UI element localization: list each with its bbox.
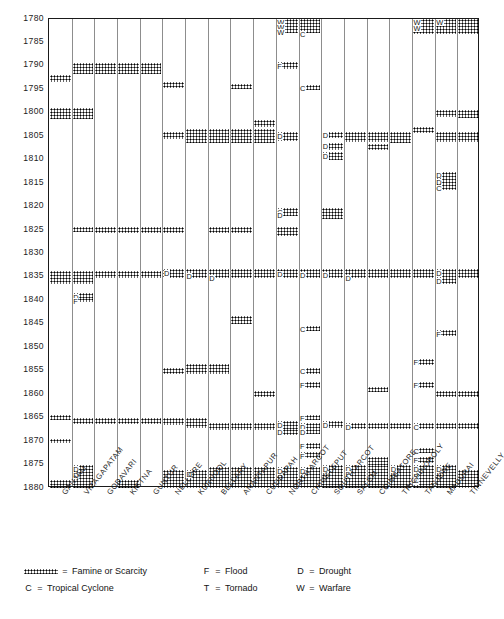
event-marker-f: F bbox=[300, 382, 305, 389]
year-tick-label: 1815 bbox=[2, 178, 44, 187]
famine-bar bbox=[163, 227, 184, 233]
legend-label: Tropical Cyclone bbox=[47, 583, 114, 593]
legend-item-tornado: T=Tornado bbox=[202, 583, 258, 593]
legend-equals: = bbox=[33, 583, 47, 593]
famine-bar bbox=[141, 63, 162, 74]
plot-area: DFDDDDDDWWWFDCDDDDDCCDCCFFDDCFTFDDDDDDDD… bbox=[48, 18, 479, 487]
famine-bar bbox=[345, 132, 366, 142]
famine-bar bbox=[95, 271, 116, 278]
famine-bar bbox=[436, 110, 457, 118]
famine-bar bbox=[368, 144, 389, 151]
event-marker-c: C bbox=[436, 185, 442, 192]
famine-bar bbox=[50, 439, 71, 444]
event-marker-d: D bbox=[436, 278, 442, 285]
famine-bar bbox=[95, 63, 116, 74]
column-gridline bbox=[276, 19, 277, 486]
event-marker-c: C bbox=[300, 368, 306, 375]
year-tick-label: 1825 bbox=[2, 225, 44, 234]
year-tick-label: 1835 bbox=[2, 271, 44, 280]
famine-bar bbox=[50, 271, 71, 283]
event-marker-f: F bbox=[300, 443, 305, 450]
legend-key-letter: C bbox=[24, 583, 33, 593]
legend-item-famine-or-scarcity: =Famine or Scarcity bbox=[24, 566, 147, 576]
famine-bar bbox=[118, 271, 139, 278]
district-axis: GANJAMVIZAGAPATAMGODAVARIKISTNAGUNTURNEL… bbox=[0, 487, 504, 567]
famine-bar bbox=[50, 75, 71, 82]
event-marker-d: D bbox=[322, 153, 328, 160]
year-tick-label: 1855 bbox=[2, 365, 44, 374]
column-gridline bbox=[185, 19, 186, 486]
legend-equals: = bbox=[211, 583, 225, 593]
event-marker-w: W bbox=[436, 19, 444, 26]
year-tick-label: 1865 bbox=[2, 412, 44, 421]
legend-label: Flood bbox=[225, 566, 248, 576]
event-marker-d: D bbox=[322, 143, 328, 150]
legend-label: Warfare bbox=[319, 583, 351, 593]
column-gridline bbox=[117, 19, 118, 486]
famine-bar bbox=[209, 227, 230, 233]
famine-bar bbox=[163, 418, 184, 425]
year-tick-label: 1820 bbox=[2, 201, 44, 210]
event-marker-f: F bbox=[300, 415, 305, 422]
year-tick-label: 1830 bbox=[2, 248, 44, 257]
year-tick-label: 1795 bbox=[2, 84, 44, 93]
famine-bar bbox=[390, 269, 411, 277]
famine-bar bbox=[73, 63, 94, 74]
famine-bar bbox=[458, 269, 479, 277]
event-marker-d: D bbox=[277, 212, 283, 219]
famine-dots-icon bbox=[24, 569, 58, 574]
event-marker-d: D bbox=[322, 132, 328, 139]
event-marker-f: F bbox=[300, 453, 305, 460]
famine-bar bbox=[231, 227, 252, 233]
famine-bar bbox=[231, 269, 252, 277]
famine-bar bbox=[163, 82, 184, 88]
legend-row: =Famine or ScarcityF=FloodD=Drought bbox=[24, 566, 444, 580]
famine-bar bbox=[458, 423, 479, 429]
event-marker-d: D bbox=[300, 272, 306, 279]
famine-bar bbox=[231, 316, 252, 324]
famine-bar bbox=[73, 418, 94, 424]
legend-equals: = bbox=[305, 566, 319, 576]
legend-key-letter: T bbox=[202, 583, 211, 593]
famine-bar bbox=[163, 368, 184, 374]
year-tick-label: 1810 bbox=[2, 154, 44, 163]
famine-bar bbox=[254, 129, 275, 143]
legend-equals: = bbox=[305, 583, 319, 593]
event-marker-d: D bbox=[186, 273, 192, 280]
famine-bar bbox=[368, 457, 389, 465]
famine-bar bbox=[50, 108, 71, 119]
event-marker-c: C bbox=[300, 31, 306, 38]
famine-bar bbox=[413, 269, 434, 277]
famine-bar bbox=[254, 120, 275, 127]
year-tick-label: 1790 bbox=[2, 60, 44, 69]
famine-bar bbox=[186, 364, 207, 373]
famine-bar bbox=[436, 423, 457, 429]
event-marker-f: F bbox=[413, 382, 418, 389]
famine-bar bbox=[141, 418, 162, 424]
event-marker-d: D bbox=[322, 272, 328, 279]
famine-bar bbox=[73, 271, 94, 283]
famine-bar bbox=[209, 364, 230, 373]
event-marker-c: C bbox=[413, 424, 419, 431]
event-marker-d: D bbox=[322, 422, 328, 429]
event-marker-w: W bbox=[413, 25, 421, 32]
column-gridline bbox=[253, 19, 254, 486]
famine-bar bbox=[458, 132, 479, 142]
legend-row: C=Tropical CycloneT=TornadoW=Warfare bbox=[24, 583, 444, 597]
column-gridline bbox=[162, 19, 163, 486]
famine-bar bbox=[118, 227, 139, 233]
legend-item-warfare: W=Warfare bbox=[296, 583, 351, 593]
famine-bar bbox=[458, 110, 479, 118]
column-gridline bbox=[208, 19, 209, 486]
legend-key-letter: W bbox=[296, 583, 305, 593]
famine-bar bbox=[254, 391, 275, 397]
legend-equals: = bbox=[211, 566, 225, 576]
column-gridline bbox=[72, 19, 73, 486]
column-gridline bbox=[321, 19, 322, 486]
legend-item-flood: F=Flood bbox=[202, 566, 248, 576]
famine-bar bbox=[141, 227, 162, 233]
legend-item-tropical-cyclone: C=Tropical Cyclone bbox=[24, 583, 114, 593]
column-gridline bbox=[435, 19, 436, 486]
event-marker-c: C bbox=[300, 85, 306, 92]
famine-bar bbox=[368, 423, 389, 429]
